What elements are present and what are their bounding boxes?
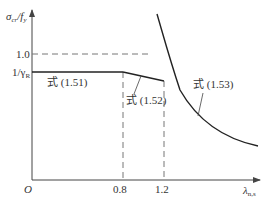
- y-tick-1.0: 1.0: [16, 48, 30, 60]
- origin-label: O: [24, 183, 32, 195]
- x-tick-1.2: 1.2: [155, 183, 169, 195]
- y-axis-label: σcr/fy: [6, 10, 27, 24]
- x-axis-label: λn,s: [242, 184, 256, 198]
- x-tick-0.8: 0.8: [113, 183, 127, 195]
- annotation-eq151: 式 (1.51): [47, 76, 88, 89]
- stability-coefficient-chart: σcr/fy 1.0 1/γR O 0.8 1.2 λn,s 式 (1.51) …: [0, 0, 268, 204]
- series-eq152-transition: [123, 72, 164, 81]
- annotation-eq153: 式 (1.53): [193, 78, 234, 91]
- y-tick-gamma-r: 1/γR: [12, 66, 30, 80]
- leader-eq153: [198, 93, 203, 116]
- leader-eq152: [134, 76, 141, 94]
- annotation-eq152: 式 (1.52): [126, 94, 167, 107]
